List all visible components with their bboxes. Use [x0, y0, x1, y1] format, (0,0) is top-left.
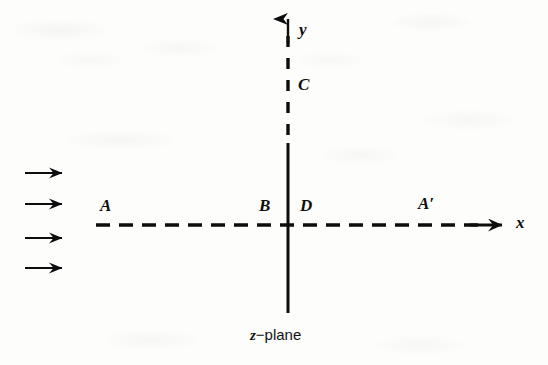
point-label-C: C — [298, 76, 309, 93]
point-label-A-prime: A′ — [418, 195, 434, 212]
figure-canvas: A B C D A′ y x z−plane — [0, 0, 548, 365]
flow-arrow-group — [25, 173, 62, 268]
caption-plane-text: −plane — [256, 326, 301, 343]
point-label-D: D — [300, 197, 312, 214]
y-axis-label: y — [299, 21, 307, 38]
figure-caption: z−plane — [250, 327, 301, 343]
point-label-B: B — [259, 197, 270, 214]
point-label-A: A — [100, 197, 111, 214]
x-axis-label: x — [516, 214, 525, 231]
diagram-svg — [0, 0, 548, 365]
